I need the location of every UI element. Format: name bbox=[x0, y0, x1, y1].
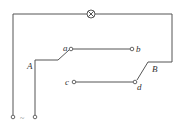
circuit-diagram: a b c d A B ~ bbox=[0, 0, 180, 130]
label-A: A bbox=[26, 61, 33, 71]
label-d: d bbox=[137, 82, 142, 92]
terminal-b bbox=[130, 47, 134, 51]
terminal-source-left bbox=[11, 115, 15, 119]
terminal-source-right bbox=[33, 115, 37, 119]
label-B: B bbox=[152, 64, 158, 74]
switch-B-blade[interactable] bbox=[137, 62, 148, 80]
source-tilde-icon: ~ bbox=[20, 114, 25, 123]
lamp-icon bbox=[87, 10, 95, 18]
terminal-a bbox=[69, 47, 73, 51]
switch-A-wire bbox=[35, 60, 58, 115]
label-b: b bbox=[136, 44, 141, 54]
label-a: a bbox=[63, 43, 68, 53]
label-c: c bbox=[65, 77, 69, 87]
terminal-c bbox=[72, 80, 76, 84]
right-wire bbox=[148, 14, 172, 62]
